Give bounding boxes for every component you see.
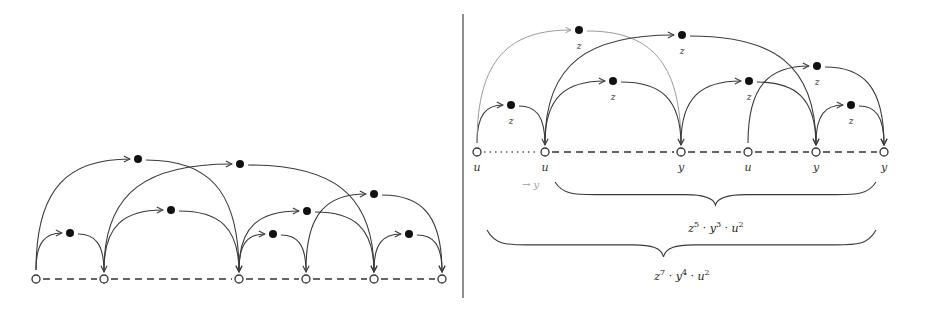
open-node	[541, 148, 549, 156]
filled-node	[847, 101, 855, 109]
filled-node	[66, 229, 74, 237]
diagram-canvas: zzzzzzz uuyuyy → y z5 · y3 · u2z7 · y4 ·…	[0, 0, 925, 311]
filled-node-label: z	[508, 116, 514, 126]
arc-falling	[621, 82, 681, 145]
open-node	[370, 275, 378, 283]
open-node	[880, 148, 888, 156]
arc-falling	[281, 235, 306, 272]
open-node	[744, 148, 752, 156]
filled-node	[303, 207, 311, 215]
left-panel	[32, 155, 446, 283]
filled-node-label: z	[746, 92, 752, 102]
filled-node-label: z	[576, 41, 582, 51]
filled-node-label: z	[848, 116, 854, 126]
filled-node	[678, 31, 686, 39]
left-filled-nodes	[66, 155, 413, 238]
filled-node-label: z	[610, 92, 616, 102]
open-node	[235, 275, 243, 283]
underbrace	[555, 182, 876, 205]
arc-rising	[374, 234, 401, 270]
arc-falling	[690, 36, 816, 145]
arc-rising	[477, 105, 503, 143]
filled-node	[507, 101, 515, 109]
open-node	[473, 148, 481, 156]
open-node	[32, 275, 40, 283]
underbrace	[487, 230, 876, 257]
open-node-label: y	[880, 161, 888, 174]
arc-falling	[417, 235, 442, 272]
filled-node-label: z	[679, 46, 685, 56]
filled-node	[405, 230, 413, 238]
open-node	[677, 148, 685, 156]
filled-node-label: z	[814, 77, 820, 87]
open-node	[812, 148, 820, 156]
right-panel: zzzzzzz uuyuyy → y z5 · y3 · u2z7 · y4 ·…	[473, 26, 888, 283]
arc-falling	[859, 106, 884, 145]
right-filled-nodes: zzzzzzz	[507, 26, 855, 126]
arc-falling	[587, 31, 681, 145]
arc-falling	[179, 211, 239, 272]
underbraces: z5 · y3 · u2z7 · y4 · u2	[487, 182, 876, 283]
arc-rising	[239, 234, 265, 270]
brace-formula: z5 · y3 · u2	[687, 220, 743, 235]
open-node	[438, 275, 446, 283]
brace-formula: z7 · y4 · u2	[653, 268, 709, 283]
filled-node	[236, 160, 244, 168]
open-node	[302, 275, 310, 283]
arc-rising	[239, 211, 299, 270]
arc-falling	[519, 106, 545, 145]
open-node-label: y	[677, 161, 685, 174]
filled-node	[745, 77, 753, 85]
open-node-label: u	[744, 161, 751, 174]
filled-node	[813, 62, 821, 70]
filled-node	[370, 190, 378, 198]
arrow-y-annotation: → y	[522, 179, 540, 190]
right-node-labels: uuyuyy	[473, 161, 887, 174]
arc-falling	[78, 234, 104, 272]
arc-falling	[248, 165, 374, 272]
filled-node	[609, 77, 617, 85]
filled-node	[167, 206, 175, 214]
open-node-label: u	[473, 161, 480, 174]
arc-rising	[681, 81, 741, 143]
open-node-label: u	[541, 161, 548, 174]
arc-rising	[545, 35, 674, 143]
arc-rising	[477, 30, 571, 143]
open-node-label: y	[812, 161, 820, 174]
filled-node	[134, 155, 142, 163]
filled-node	[575, 26, 583, 34]
left-arcs	[36, 159, 442, 272]
arc-rising	[36, 233, 62, 270]
filled-node	[269, 230, 277, 238]
open-node	[100, 275, 108, 283]
arc-rising	[36, 159, 130, 270]
arc-rising	[816, 105, 843, 143]
arc-falling	[146, 160, 239, 272]
